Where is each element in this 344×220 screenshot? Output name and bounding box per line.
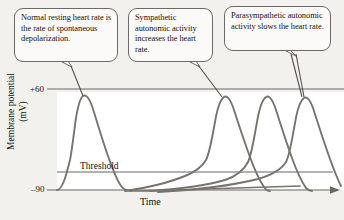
trace-sympathetic-increased-rate [125, 96, 270, 191]
callout-sympathetic[interactable]: Sympathetic autonomic activity increases… [128, 8, 213, 62]
threshold-label: Threshold [80, 161, 119, 171]
x-axis-arrowhead [330, 186, 340, 194]
pacemaker-action-potential-figure: Normal resting heart rate is the rate of… [0, 0, 344, 220]
callout-normal-resting-rate[interactable]: Normal resting heart rate is the rate of… [14, 8, 118, 62]
callout-0-pointer [71, 66, 83, 96]
callout-parasympathetic[interactable]: Parasympathetic autonomic activity slows… [224, 6, 331, 51]
y-axis-label: Membrane potential (mV) [6, 64, 29, 160]
trace-parasympathetic-slowed-rate [158, 97, 341, 192]
callout-1-pointer [198, 65, 222, 97]
trace-normal-resting-rate [57, 95, 131, 191]
y-tick-label-minus90: –90 [31, 184, 45, 194]
y-tick-label-plus60: +60 [30, 84, 44, 94]
x-axis-label: Time [140, 196, 161, 207]
trace-normal-rate-second-cycle [150, 96, 312, 191]
